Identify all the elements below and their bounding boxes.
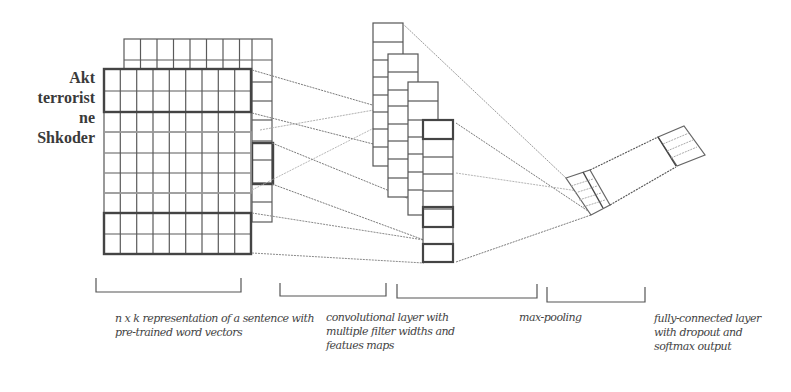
sentence-words: Akt terrorist ne Shkoder xyxy=(0,68,95,148)
bracket-fc xyxy=(547,287,645,302)
max-pool-vector xyxy=(566,170,610,215)
caption-input-representation: n x k representation of a sentence with … xyxy=(115,312,315,340)
caption-convolutional-layer: convolutional layer with multiple filter… xyxy=(326,311,476,353)
word-label: ne xyxy=(0,108,95,128)
bracket-pool xyxy=(397,284,537,298)
caption-max-pooling: max-pooling xyxy=(519,311,639,325)
word-label: terrorist xyxy=(0,88,95,108)
bracket-input xyxy=(96,278,241,292)
word-label: Shkoder xyxy=(0,128,95,148)
conv-feature-map-4 xyxy=(423,120,453,262)
fully-connected-output xyxy=(658,126,705,166)
input-matrix-front xyxy=(104,69,251,254)
word-label: Akt xyxy=(0,68,95,88)
bracket-conv xyxy=(280,283,386,296)
caption-fully-connected: fully-connected layer with dropout and s… xyxy=(654,312,774,354)
